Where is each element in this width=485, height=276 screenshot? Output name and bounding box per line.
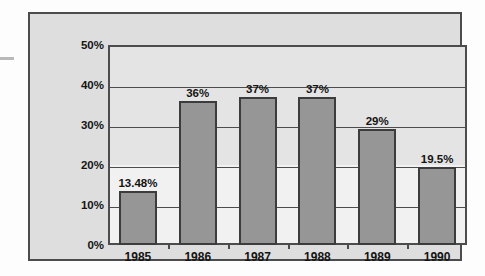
bar-1988[interactable] [298, 97, 336, 245]
bar-1987[interactable] [239, 97, 277, 245]
x-axis-tick [347, 245, 349, 249]
page-background: 0%10%20%30%40%50% 13.48%36%37%37%29%19.5… [0, 0, 485, 276]
x-axis-label-1989: 1989 [364, 250, 391, 264]
bar-1989[interactable] [358, 129, 396, 245]
y-axis-tick-label: 10% [58, 199, 104, 211]
y-axis-tick-label: 0% [58, 239, 104, 251]
x-axis-label-1988: 1988 [304, 250, 331, 264]
x-axis-tick [288, 245, 290, 249]
x-axis-label-1987: 1987 [244, 250, 271, 264]
bar-slot: 29% [347, 45, 407, 245]
bar-value-label: 29% [366, 115, 389, 127]
y-axis-tick-label: 20% [58, 159, 104, 171]
chart-figure-frame: 0%10%20%30%40%50% 13.48%36%37%37%29%19.5… [28, 12, 462, 261]
bar-1985[interactable] [119, 191, 157, 245]
bar-value-label: 13.48% [118, 177, 157, 189]
bar-slot: 37% [228, 45, 288, 245]
x-axis-tick [168, 245, 170, 249]
bar-1990[interactable] [418, 167, 456, 245]
y-axis-tick-label: 40% [58, 79, 104, 91]
x-axis-tick [228, 245, 230, 249]
x-axis-tick [407, 245, 409, 249]
bar-value-label: 36% [186, 87, 209, 99]
bar-value-label: 37% [306, 83, 329, 95]
bar-1986[interactable] [179, 101, 217, 245]
x-axis-label-1990: 1990 [424, 250, 451, 264]
bar-series: 13.48%36%37%37%29%19.5% [108, 45, 467, 245]
bar-slot: 37% [288, 45, 348, 245]
margin-dash-mark [0, 57, 14, 60]
bar-value-label: 37% [246, 83, 269, 95]
bar-slot: 13.48% [108, 45, 168, 245]
bar-value-label: 19.5% [421, 153, 454, 165]
x-axis-label-1985: 1985 [125, 250, 152, 264]
y-axis: 0%10%20%30%40%50% [58, 45, 104, 245]
bar-slot: 36% [168, 45, 228, 245]
x-axis-label-1986: 1986 [184, 250, 211, 264]
y-axis-tick-label: 50% [58, 39, 104, 51]
bar-slot: 19.5% [407, 45, 467, 245]
x-axis: 198519861987198819891990 [108, 250, 467, 270]
y-axis-tick-label: 30% [58, 119, 104, 131]
